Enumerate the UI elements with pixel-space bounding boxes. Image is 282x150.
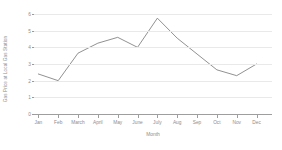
gridline bbox=[34, 97, 272, 98]
x-tick-mark bbox=[98, 114, 99, 118]
x-tick-mark bbox=[138, 114, 139, 118]
x-tick-label: Dec bbox=[252, 120, 261, 126]
x-tick-mark bbox=[237, 114, 238, 118]
y-axis-title: Gas Price at Local Gas Station bbox=[1, 19, 11, 119]
y-tick-label: 0 bbox=[28, 112, 31, 117]
gridline bbox=[34, 81, 272, 82]
y-axis-title-container: Gas Price at Local Gas Station bbox=[0, 50, 10, 60]
x-tick-mark bbox=[118, 114, 119, 118]
x-tick-label: Nov bbox=[232, 120, 241, 126]
gridline bbox=[34, 47, 272, 48]
x-tick-label: Sep bbox=[193, 120, 202, 126]
y-tick-mark bbox=[32, 47, 34, 48]
y-tick-mark bbox=[32, 14, 34, 15]
y-tick-label: 6 bbox=[28, 12, 31, 17]
y-tick-mark bbox=[32, 31, 34, 32]
x-tick-mark bbox=[58, 114, 59, 118]
x-tick-label: June bbox=[132, 120, 142, 126]
gridline bbox=[34, 31, 272, 32]
x-tick-label: Aug bbox=[173, 120, 182, 126]
x-tick-label: Jan bbox=[34, 120, 42, 126]
x-tick-label: March bbox=[71, 120, 84, 126]
y-tick-mark bbox=[32, 97, 34, 98]
gridline bbox=[34, 14, 272, 15]
x-tick-label: May bbox=[113, 120, 122, 126]
y-tick-mark bbox=[32, 64, 34, 65]
y-tick-label: 2 bbox=[28, 78, 31, 83]
y-tick-label: 1 bbox=[28, 95, 31, 100]
plot-area: 0123456JanFebMarchAprilMayJuneJulyAugSep… bbox=[34, 14, 272, 114]
x-tick-mark bbox=[38, 114, 39, 118]
y-tick-label: 3 bbox=[28, 62, 31, 67]
x-tick-label: April bbox=[93, 120, 103, 126]
y-tick-label: 4 bbox=[28, 45, 31, 50]
y-tick-mark bbox=[32, 114, 34, 115]
x-tick-mark bbox=[177, 114, 178, 118]
y-tick-mark bbox=[32, 81, 34, 82]
y-tick-label: 5 bbox=[28, 28, 31, 33]
x-tick-mark bbox=[157, 114, 158, 118]
gas-price-line bbox=[38, 18, 256, 81]
gridline bbox=[34, 64, 272, 65]
x-tick-mark bbox=[197, 114, 198, 118]
x-axis-title: Month bbox=[34, 132, 272, 138]
x-tick-mark bbox=[217, 114, 218, 118]
x-tick-label: Oct bbox=[213, 120, 220, 126]
x-tick-mark bbox=[257, 114, 258, 118]
line-chart: Gas Price at Local Gas Station 0123456Ja… bbox=[0, 0, 282, 150]
x-tick-label: Feb bbox=[54, 120, 62, 126]
x-tick-mark bbox=[78, 114, 79, 118]
x-tick-label: July bbox=[153, 120, 162, 126]
